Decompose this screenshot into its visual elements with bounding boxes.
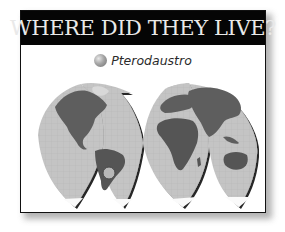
pterodaustro-habitat-marker (103, 167, 115, 179)
page-title: WHERE DID THEY LIVE? (10, 16, 276, 40)
legend: Pterodaustro (21, 51, 265, 69)
title-bar: WHERE DID THEY LIVE? (21, 11, 265, 45)
antarctica-fragment (225, 197, 251, 207)
infographic-frame: WHERE DID THEY LIVE? Pterodaustro (20, 10, 266, 213)
legend-label: Pterodaustro (111, 53, 192, 68)
world-map (33, 81, 259, 211)
grey-circle-marker-icon (94, 54, 107, 67)
antarctica-fragment (113, 199, 133, 207)
antarctica-fragment (63, 198, 83, 207)
